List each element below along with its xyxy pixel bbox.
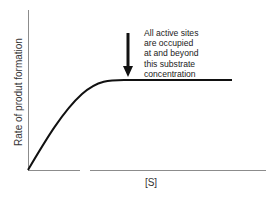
- annotation-line: are occupied: [144, 38, 198, 48]
- annotation-line: concentration: [144, 69, 198, 79]
- y-axis-label: Rate of produt formation: [13, 38, 24, 146]
- x-axis-label: [S]: [145, 177, 157, 188]
- saturation-diagram: Rate of produt formation [S] All active …: [0, 0, 280, 200]
- arrow-down-icon: [123, 33, 133, 77]
- saturation-curve: [28, 80, 232, 170]
- saturation-annotation: All active sites are occupied at and bey…: [144, 28, 198, 79]
- annotation-line: at and beyond: [144, 48, 198, 58]
- plot-area: [0, 0, 280, 200]
- annotation-line: All active sites: [144, 28, 198, 38]
- annotation-line: this substrate: [144, 59, 198, 69]
